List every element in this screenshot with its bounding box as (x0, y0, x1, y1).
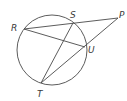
geometry-figure: R S P U T (0, 0, 127, 101)
label-T: T (37, 89, 44, 99)
label-P: P (119, 10, 125, 20)
label-R: R (11, 23, 17, 33)
chord-RU (24, 29, 85, 47)
label-U: U (88, 45, 95, 55)
label-S: S (70, 10, 76, 20)
chord-ST (41, 23, 73, 83)
circle-secant-diagram: R S P U T (0, 0, 127, 101)
